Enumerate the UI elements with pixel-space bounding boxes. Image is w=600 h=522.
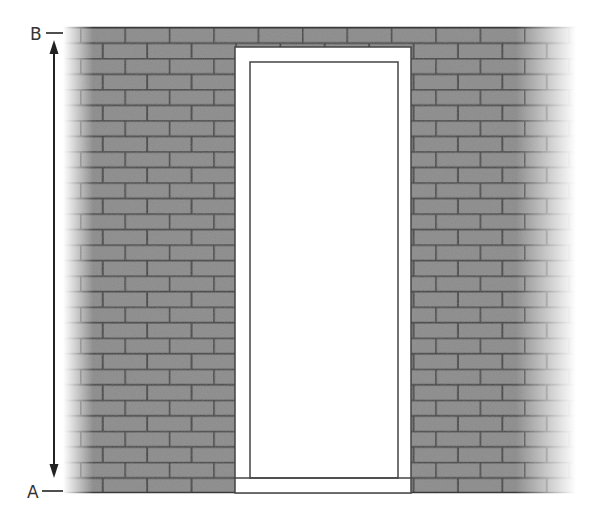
label-a: A: [27, 482, 39, 502]
door-inner-panel: [250, 62, 398, 478]
label-b: B: [30, 24, 42, 44]
brick-wall-door-diagram: B A: [0, 0, 600, 522]
door: [235, 47, 411, 493]
